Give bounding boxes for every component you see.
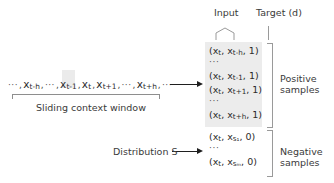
token-x-t-plus-1: xt+1	[96, 78, 116, 90]
positive-ellipsis-row: ···	[209, 97, 262, 108]
pos-r3-d: 1	[252, 84, 258, 95]
arrow-context-to-positive-line	[170, 84, 198, 85]
token-sub-t-minus-1: t-1	[66, 82, 76, 91]
target-column-label: Target (d)	[256, 7, 302, 18]
negative-ellipsis-row: ···	[209, 144, 257, 155]
negative-samples-bracket	[267, 130, 273, 177]
token-x-t-minus-h: xt-h	[23, 78, 40, 90]
sliding-window-brace	[12, 94, 160, 100]
sequence-sep-6: ,	[132, 80, 137, 90]
sequence-inner-dots-right: ···	[121, 80, 131, 90]
pos-r0-d: 1	[249, 45, 255, 56]
brace-tick-right	[159, 94, 160, 99]
target-tick-icon	[268, 26, 269, 40]
arrow-context-to-positive-head	[197, 81, 203, 87]
sliding-window-caption: Sliding context window	[36, 102, 146, 113]
pos-r5-target-sub: t+h	[233, 112, 246, 121]
token-sub-t-minus-h: t-h	[30, 82, 40, 91]
positive-caption-line1: Positive	[280, 74, 320, 85]
token-sub-t: t	[88, 82, 91, 91]
sequence-inner-dots-left: ···	[45, 80, 55, 90]
figure-canvas: Input Target (d) ···,xt-h,···,xt-1,xt,xt…	[0, 0, 334, 183]
pos-r3-input-sub: t	[218, 87, 221, 96]
pos-r2-d: 1	[249, 70, 255, 81]
distribution-label: Distribution S	[113, 146, 177, 157]
positive-sample-row: (xt, xt+1, 1)	[209, 83, 262, 97]
neg-r0-input-sub: t	[218, 134, 221, 143]
token-x-t-plus-h: xt+h	[137, 78, 157, 90]
pos-r2-target-sub: t-1	[233, 73, 243, 82]
pos-r5-d: 1	[252, 109, 258, 120]
neg-r2-input-sub: t	[218, 159, 221, 168]
arrow-distribution-to-negative-head	[197, 148, 203, 154]
input-column-label: Input	[214, 7, 239, 18]
token-sub-t-plus-1: t+1	[103, 82, 117, 91]
negative-caption-line2: samples	[280, 158, 323, 169]
positive-sample-row: (xt, xt-h, 1)	[209, 44, 262, 58]
negative-sample-row: (xt, xs₁, 0)	[209, 130, 257, 144]
positive-samples-bracket	[267, 43, 273, 128]
brace-tick-left	[12, 94, 13, 99]
negative-sample-row: (xt, xsₘ, 0)	[209, 155, 257, 169]
pos-r0-target-sub: t-h	[233, 48, 243, 57]
negative-caption-line1: Negative	[280, 147, 323, 158]
pos-r5-input-sub: t	[218, 112, 221, 121]
neg-r2-target-sub: sₘ	[233, 159, 241, 168]
neg-r0-d: 0	[246, 131, 252, 142]
brace-line	[12, 94, 160, 95]
positive-samples-caption: Positive samples	[280, 74, 320, 95]
positive-sample-row: (xt, xt+h, 1)	[209, 108, 262, 122]
pos-r3-target-sub: t+1	[233, 87, 246, 96]
sequence-leading-dots: ···	[8, 80, 18, 90]
token-x-t: xt	[82, 78, 91, 90]
positive-sample-row: (xt, xt-1, 1)	[209, 69, 262, 83]
token-sequence: ···,xt-h,···,xt-1,xt,xt+1,···,xt+h,···	[8, 78, 172, 91]
neg-r0-target-sub: s₁	[233, 134, 240, 143]
pos-r0-input-sub: t	[218, 48, 221, 57]
positive-caption-line2: samples	[280, 85, 320, 96]
positive-ellipsis-row: ···	[209, 58, 262, 69]
negative-samples-caption: Negative samples	[280, 147, 323, 168]
token-x-t-minus-1: xt-1	[60, 78, 77, 90]
negative-samples-list: (xt, xs₁, 0) ··· (xt, xsₘ, 0)	[209, 130, 257, 169]
neg-r2-d: 0	[247, 156, 253, 167]
token-sub-t-plus-h: t+h	[143, 82, 157, 91]
pos-r2-input-sub: t	[218, 73, 221, 82]
input-caret-icon	[215, 26, 235, 40]
positive-samples-list: (xt, xt-h, 1) ··· (xt, xt-1, 1) (xt, xt+…	[209, 44, 262, 122]
